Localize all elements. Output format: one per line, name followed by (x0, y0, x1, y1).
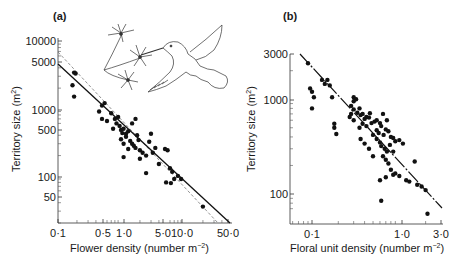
x-tick-label: 50·0 (217, 227, 239, 239)
data-point (371, 133, 375, 137)
y-tick-label: 10000 (25, 35, 56, 47)
data-point (391, 149, 395, 153)
data-point (381, 133, 385, 137)
data-point (116, 115, 120, 119)
data-point (368, 111, 372, 115)
data-point (165, 148, 169, 152)
data-point (179, 177, 183, 181)
data-point (109, 111, 113, 115)
data-point (348, 115, 352, 119)
x-tick-label: 10·0 (171, 227, 193, 239)
panel-b-label: (b) (283, 10, 297, 22)
data-point (357, 106, 361, 110)
data-point (149, 132, 153, 136)
y-tick-label: 1000 (32, 104, 56, 116)
data-point (381, 154, 385, 158)
data-point (126, 129, 130, 133)
data-point (138, 157, 142, 161)
data-point (121, 127, 125, 131)
data-point (384, 175, 388, 179)
data-point (419, 184, 423, 188)
data-point (201, 204, 205, 208)
data-point (328, 83, 332, 87)
data-point (144, 171, 148, 175)
data-point (172, 177, 176, 181)
data-point (377, 131, 381, 135)
data-point (310, 106, 314, 110)
data-point (381, 112, 385, 116)
data-point (306, 61, 310, 65)
data-point (323, 82, 327, 86)
data-point (170, 170, 174, 174)
data-point (332, 126, 336, 130)
x-tick-label: 0·1 (304, 228, 320, 240)
y-tick-label: 50 (44, 191, 56, 203)
data-point (385, 118, 389, 122)
data-point (371, 154, 375, 158)
x-tick-label: 0·5 (95, 227, 111, 239)
data-point (136, 138, 140, 142)
data-point (119, 137, 123, 141)
data-point (354, 97, 358, 101)
y-tick-label: 5000 (32, 56, 56, 68)
panel-a-y-axis-title: Territory size (m2) (10, 86, 22, 172)
data-point (413, 159, 417, 163)
data-point (334, 132, 338, 136)
data-point (332, 122, 336, 126)
panel-a-y-ticks: 100005000100050010050 (25, 35, 62, 223)
data-point (401, 141, 405, 145)
y-tick-label: 100 (270, 188, 288, 200)
data-point (140, 151, 144, 155)
data-point (352, 118, 356, 122)
panel-a: (a) 1 (10, 10, 239, 254)
data-point (73, 71, 77, 75)
data-point (358, 137, 362, 141)
data-point (425, 212, 429, 216)
data-point (386, 129, 390, 133)
panel-b-x-ticks: 0·11·03·0 (293, 220, 449, 240)
panel-a-x-axis-title: Flower density (number m−2) (70, 242, 209, 254)
data-point (357, 126, 361, 130)
y-tick-label: 3000 (264, 48, 288, 60)
data-point (384, 158, 388, 162)
y-tick-label: 500 (38, 124, 56, 136)
data-point (97, 109, 101, 113)
data-point (126, 147, 130, 151)
data-point (389, 168, 393, 172)
hummingbird-illustration (104, 24, 228, 92)
data-point (117, 124, 121, 128)
panel-a-label: (a) (53, 10, 67, 22)
data-point (378, 178, 382, 182)
data-point (72, 94, 76, 98)
data-point (157, 162, 161, 166)
data-point (169, 181, 173, 185)
data-point (100, 117, 104, 121)
data-point (375, 137, 379, 141)
figure: (a) 1 (0, 0, 465, 266)
data-point (415, 183, 419, 187)
data-point (144, 153, 148, 157)
data-point (153, 146, 157, 150)
data-point (397, 174, 401, 178)
data-point (130, 121, 134, 125)
panel-b-data-points (306, 61, 430, 216)
data-point (360, 112, 364, 116)
x-tick-label: 1·0 (116, 227, 132, 239)
data-point (133, 146, 137, 150)
data-point (388, 143, 392, 147)
data-point (325, 78, 329, 82)
data-point (379, 199, 383, 203)
data-point (393, 171, 397, 175)
data-point (352, 107, 356, 111)
data-point (379, 144, 383, 148)
data-point (330, 95, 334, 99)
data-point (102, 101, 106, 105)
data-point (360, 122, 364, 126)
hummingbird-icon (141, 25, 228, 92)
panel-b-y-axis-title: Territory size (m2) (245, 86, 257, 172)
data-point (379, 124, 383, 128)
data-point (362, 141, 366, 145)
data-point (111, 127, 115, 131)
panel-a-regression-solid (58, 64, 230, 223)
data-point (393, 139, 397, 143)
